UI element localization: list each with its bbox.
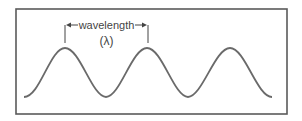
arrow-right-icon xyxy=(142,23,147,28)
wavelength-label: wavelength xyxy=(78,19,135,31)
sine-wave xyxy=(24,48,272,97)
lambda-symbol: (λ) xyxy=(100,34,114,48)
wavelength-diagram: wavelength (λ) xyxy=(0,0,302,121)
frame-border xyxy=(16,9,287,114)
arrow-left-icon xyxy=(66,23,71,28)
